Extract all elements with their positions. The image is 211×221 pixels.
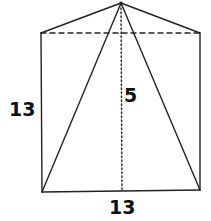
left-edge bbox=[41, 33, 42, 192]
left-side-length-label: 13 bbox=[9, 100, 35, 119]
bottom-edge bbox=[42, 190, 200, 192]
height-label: 5 bbox=[124, 86, 137, 105]
apex-point bbox=[119, 1, 122, 4]
apex-to-top-left bbox=[41, 3, 121, 33]
apex-to-top-right bbox=[121, 3, 200, 33]
geometry-figure: 13 5 13 bbox=[0, 0, 211, 221]
bottom-side-length-label: 13 bbox=[109, 198, 135, 217]
height-line-dotted bbox=[121, 4, 122, 191]
apex-to-bottom-left bbox=[42, 3, 121, 192]
